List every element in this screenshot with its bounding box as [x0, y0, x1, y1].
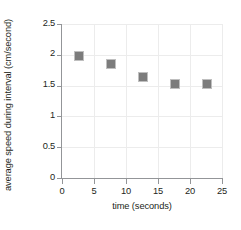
x-axis-tick-label: 25 — [207, 186, 237, 196]
data-point — [170, 79, 180, 89]
x-axis-tick-label: 0 — [47, 186, 77, 196]
gridline-vertical — [190, 24, 191, 178]
gridline-horizontal — [62, 147, 222, 148]
y-axis-tick — [57, 116, 62, 117]
data-point — [106, 59, 116, 69]
x-axis-title: time (seconds) — [62, 201, 222, 211]
x-axis-line — [61, 178, 223, 179]
y-axis-tick-label: 1.5 — [15, 79, 55, 89]
y-axis-line — [61, 24, 62, 179]
y-axis-tick-label: 1 — [15, 110, 55, 120]
y-axis-tick-label: 0 — [15, 172, 55, 182]
y-axis-tick — [57, 24, 62, 25]
gridline-horizontal — [62, 24, 222, 25]
y-axis-tick — [57, 86, 62, 87]
plot-area — [62, 24, 222, 178]
x-axis-tick-label: 5 — [79, 186, 109, 196]
gridline-vertical — [126, 24, 127, 178]
y-axis-tick-label: 2 — [15, 48, 55, 58]
y-axis-tick-label: 2.5 — [15, 18, 55, 28]
x-axis-tick — [222, 179, 223, 184]
data-point — [202, 79, 212, 89]
y-axis-title: average speed during interval (cm/second… — [1, 5, 15, 205]
gridline-horizontal — [62, 86, 222, 87]
gridline-vertical — [158, 24, 159, 178]
gridline-horizontal — [62, 116, 222, 117]
gridline-vertical — [94, 24, 95, 178]
data-point — [138, 72, 148, 82]
gridline-vertical — [222, 24, 223, 178]
data-point — [74, 51, 84, 61]
x-axis-tick — [158, 179, 159, 184]
x-axis-tick — [190, 179, 191, 184]
x-axis-tick-label: 20 — [175, 186, 205, 196]
x-axis-tick — [94, 179, 95, 184]
y-axis-tick — [57, 147, 62, 148]
y-axis-tick — [57, 55, 62, 56]
gridline-horizontal — [62, 55, 222, 56]
chart-container: average speed during interval (cm/second… — [0, 0, 241, 230]
x-axis-tick-label: 10 — [111, 186, 141, 196]
x-axis-tick — [126, 179, 127, 184]
x-axis-tick-label: 15 — [143, 186, 173, 196]
y-axis-tick-label: 0.5 — [15, 141, 55, 151]
x-axis-tick — [62, 179, 63, 184]
